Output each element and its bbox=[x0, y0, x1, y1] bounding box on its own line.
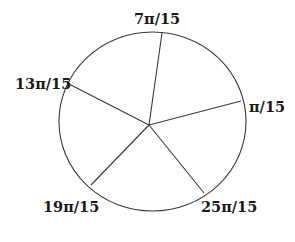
label-7pi-15: 7π/15 bbox=[134, 10, 180, 27]
spoke-pi-15 bbox=[149, 101, 241, 125]
spoke-25pi-15 bbox=[149, 125, 204, 193]
label-pi-15: π/15 bbox=[249, 98, 285, 115]
label-19pi-15: 19π/15 bbox=[43, 198, 99, 215]
spoke-7pi-15 bbox=[149, 33, 162, 125]
spoke-13pi-15 bbox=[67, 83, 149, 125]
label-25pi-15: 25π/15 bbox=[201, 198, 257, 215]
spoke-19pi-15 bbox=[91, 125, 149, 185]
circle-diagram: π/15 7π/15 13π/15 19π/15 25π/15 bbox=[0, 0, 295, 242]
circle-outline bbox=[59, 32, 246, 211]
label-13pi-15: 13π/15 bbox=[15, 75, 71, 92]
